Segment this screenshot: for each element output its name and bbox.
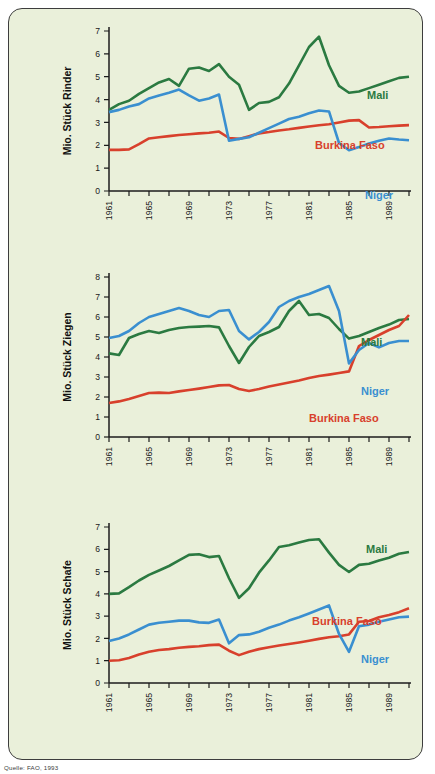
x-tick-label: 1977	[264, 201, 274, 220]
series-line-niger	[109, 286, 409, 363]
y-tick-label: 3	[95, 611, 100, 621]
series-line-niger	[109, 605, 409, 651]
y-tick-label: 1	[95, 656, 100, 666]
x-tick-label: 1981	[304, 447, 314, 466]
x-tick-label: 1961	[104, 201, 114, 220]
x-tick-label: 1977	[264, 447, 274, 466]
x-tick-label: 1977	[264, 693, 274, 712]
line-chart-0: 0123456719611965196919731977198119851989…	[9, 13, 423, 259]
y-tick-label: 2	[95, 392, 100, 402]
x-tick-label: 1969	[184, 447, 194, 466]
x-tick-label: 1973	[224, 201, 234, 220]
y-axis-label: Mio. Stück Ziegen	[61, 312, 73, 401]
y-tick-label: 6	[95, 544, 100, 554]
x-tick-label: 1973	[224, 693, 234, 712]
x-tick-label: 1985	[344, 447, 354, 466]
figure-frame: 0123456719611965196919731977198119851989…	[8, 8, 423, 760]
y-tick-label: 3	[95, 118, 100, 128]
x-tick-label: 1981	[304, 201, 314, 220]
series-label-burkina-faso: Burkina Faso	[309, 412, 379, 424]
y-tick-label: 7	[95, 522, 100, 532]
y-tick-label: 0	[95, 432, 100, 442]
series-line-mali	[109, 539, 409, 598]
series-label-niger: Niger	[365, 189, 393, 201]
x-tick-label: 1989	[384, 201, 394, 220]
y-axis-label: Mio. Stück Schafe	[61, 560, 73, 650]
line-chart-2: 0123456719611965196919731977198119851989…	[9, 505, 423, 757]
series-label-mali: Mali	[361, 336, 382, 348]
series-label-mali: Mali	[366, 543, 387, 555]
x-tick-label: 1985	[344, 201, 354, 220]
y-tick-label: 8	[95, 272, 100, 282]
y-tick-label: 4	[95, 95, 100, 105]
y-axis-label: Mio. Stück Rinder	[61, 67, 73, 156]
source-note: Quelle: FAO, 1993	[4, 764, 58, 771]
y-tick-label: 7	[95, 292, 100, 302]
y-tick-label: 5	[95, 72, 100, 82]
x-tick-label: 1973	[224, 447, 234, 466]
x-tick-label: 1981	[304, 693, 314, 712]
x-tick-label: 1965	[144, 693, 154, 712]
x-tick-label: 1969	[184, 201, 194, 220]
y-tick-label: 5	[95, 567, 100, 577]
series-label-mali: Mali	[367, 89, 388, 101]
y-tick-label: 4	[95, 589, 100, 599]
series-label-burkina-faso: Burkina Faso	[312, 615, 382, 627]
series-label-niger: Niger	[361, 653, 389, 665]
y-tick-label: 6	[95, 312, 100, 322]
x-tick-label: 1965	[144, 201, 154, 220]
y-tick-label: 2	[95, 634, 100, 644]
series-line-mali	[109, 37, 409, 110]
y-tick-label: 0	[95, 678, 100, 688]
y-tick-label: 2	[95, 140, 100, 150]
x-tick-label: 1989	[384, 693, 394, 712]
y-tick-label: 4	[95, 352, 100, 362]
x-tick-label: 1961	[104, 693, 114, 712]
y-tick-label: 1	[95, 163, 100, 173]
x-tick-label: 1961	[104, 447, 114, 466]
chart-panel-ziegen: 0123456781961196519691973197719811985198…	[9, 259, 423, 505]
x-tick-label: 1985	[344, 693, 354, 712]
series-label-burkina-faso: Burkina Faso	[315, 139, 385, 151]
y-tick-label: 1	[95, 412, 100, 422]
x-tick-label: 1989	[384, 447, 394, 466]
y-tick-label: 6	[95, 49, 100, 59]
chart-panel-schafe: 0123456719611965196919731977198119851989…	[9, 505, 423, 757]
y-tick-label: 0	[95, 186, 100, 196]
series-label-niger: Niger	[361, 385, 389, 397]
x-tick-label: 1969	[184, 693, 194, 712]
chart-panel-rinder: 0123456719611965196919731977198119851989…	[9, 13, 423, 259]
y-tick-label: 7	[95, 26, 100, 36]
y-tick-label: 3	[95, 372, 100, 382]
y-tick-label: 5	[95, 332, 100, 342]
line-chart-1: 0123456781961196519691973197719811985198…	[9, 259, 423, 505]
x-tick-label: 1965	[144, 447, 154, 466]
